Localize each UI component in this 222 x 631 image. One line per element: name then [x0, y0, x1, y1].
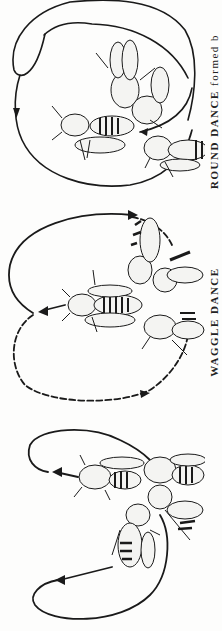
- caption-waggle-dance: WAGGLE DANCE: [206, 267, 222, 376]
- arrow-left-icon: [38, 306, 48, 316]
- caption-round-dance: ROUND DANCE: [206, 90, 222, 189]
- arrow-left-icon: [52, 467, 62, 477]
- bee-group: [62, 218, 204, 355]
- caption-trailing-text: formed b: [206, 34, 222, 86]
- round-dance-illustration: [0, 0, 205, 205]
- arrow-left-icon: [55, 575, 65, 585]
- bee-group: [74, 454, 205, 568]
- sickle-dance-figure: [0, 415, 205, 631]
- round-dance-figure: [0, 0, 205, 205]
- sickle-dance-illustration: [0, 415, 205, 631]
- waggle-dance-illustration: [0, 205, 205, 415]
- waggle-dance-figure: [0, 205, 205, 415]
- arrow-down-icon: [13, 108, 20, 118]
- illustration-page: WAGGLE DANCE ROUND DANCE formed b: [0, 0, 222, 631]
- arrow-left-icon: [140, 128, 148, 136]
- figure-caption-strip: WAGGLE DANCE ROUND DANCE formed b: [206, 0, 222, 631]
- figure-caption: WAGGLE DANCE ROUND DANCE formed b: [206, 0, 222, 631]
